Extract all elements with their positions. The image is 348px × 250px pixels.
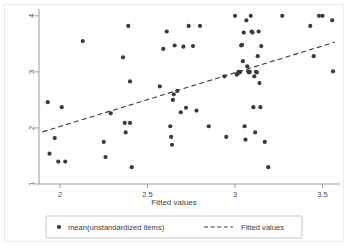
data-point xyxy=(320,14,324,18)
data-point xyxy=(53,136,57,140)
data-point xyxy=(181,45,185,49)
fitted-line-group xyxy=(43,42,335,132)
data-point xyxy=(245,64,249,68)
data-point xyxy=(191,44,195,48)
data-point xyxy=(172,92,176,96)
data-point xyxy=(165,29,169,33)
data-point xyxy=(81,39,85,43)
data-point xyxy=(126,24,130,28)
data-point xyxy=(331,69,335,73)
data-point xyxy=(259,44,263,48)
data-point xyxy=(248,70,252,74)
plot-frame xyxy=(39,9,340,184)
data-point xyxy=(250,31,254,35)
fitted-regression-line xyxy=(43,42,335,132)
data-point xyxy=(128,121,132,125)
data-point xyxy=(255,70,259,74)
data-point xyxy=(47,152,51,156)
x-axis-ticks: 22.533.5 xyxy=(58,184,328,199)
data-point xyxy=(128,79,132,83)
x-tick-label: 3 xyxy=(233,190,237,199)
x-tick-label: 3.5 xyxy=(317,190,327,199)
data-point xyxy=(240,43,244,47)
data-point xyxy=(257,81,261,85)
data-point xyxy=(179,110,183,114)
data-point xyxy=(171,98,175,102)
data-point xyxy=(168,124,172,128)
data-point xyxy=(161,47,165,51)
data-point xyxy=(253,130,257,134)
data-point xyxy=(243,138,247,142)
legend-label-scatter: mean(unstandardized items) xyxy=(68,223,165,232)
data-point xyxy=(266,165,270,169)
y-tick-label: 4 xyxy=(27,14,36,18)
legend-marker-icon xyxy=(57,225,61,229)
data-point xyxy=(251,105,255,109)
data-point xyxy=(280,14,284,18)
y-axis-ticks: 1234 xyxy=(27,14,39,186)
data-points-group xyxy=(46,14,335,170)
chart-legend: mean(unstandardized items) Fitted values xyxy=(46,216,302,238)
data-point xyxy=(170,143,174,147)
y-tick-label: 3 xyxy=(27,70,36,74)
data-point xyxy=(233,14,237,18)
data-point xyxy=(257,29,261,33)
data-point xyxy=(173,43,177,47)
data-point xyxy=(102,140,106,144)
x-axis-title: Fitted values xyxy=(151,198,196,207)
data-point xyxy=(243,124,247,128)
data-point xyxy=(124,130,128,134)
data-point xyxy=(207,124,211,128)
chart-svg: 1234 22.533.5 Fitted values mean(unstand… xyxy=(0,0,348,250)
data-point xyxy=(63,159,67,163)
scatter-plot-figure: 1234 22.533.5 Fitted values mean(unstand… xyxy=(0,0,348,250)
data-point xyxy=(244,18,248,22)
data-point xyxy=(263,140,267,144)
y-tick-label: 2 xyxy=(27,126,36,130)
data-point xyxy=(330,18,334,22)
data-point xyxy=(130,165,134,169)
legend-label-line: Fitted values xyxy=(241,223,284,232)
data-point xyxy=(198,24,202,28)
data-point xyxy=(241,59,245,63)
data-point xyxy=(256,54,260,58)
y-tick-label: 1 xyxy=(27,182,36,186)
data-point xyxy=(121,55,125,59)
data-point xyxy=(194,108,198,112)
data-point xyxy=(60,105,64,109)
data-point xyxy=(184,106,188,110)
data-point xyxy=(308,24,312,28)
data-point xyxy=(158,84,162,88)
data-point xyxy=(224,135,228,139)
data-point xyxy=(56,159,60,163)
data-point xyxy=(258,105,262,109)
data-point xyxy=(242,31,246,35)
data-point xyxy=(312,54,316,58)
data-point xyxy=(252,74,256,78)
data-point xyxy=(249,14,253,18)
plot-area-wrapper: 1234 22.533.5 Fitted values mean(unstand… xyxy=(0,0,348,250)
data-point xyxy=(169,135,173,139)
x-tick-label: 2 xyxy=(58,190,62,199)
data-point xyxy=(123,121,127,125)
data-point xyxy=(46,100,50,104)
data-point xyxy=(103,155,107,159)
data-point xyxy=(187,24,191,28)
